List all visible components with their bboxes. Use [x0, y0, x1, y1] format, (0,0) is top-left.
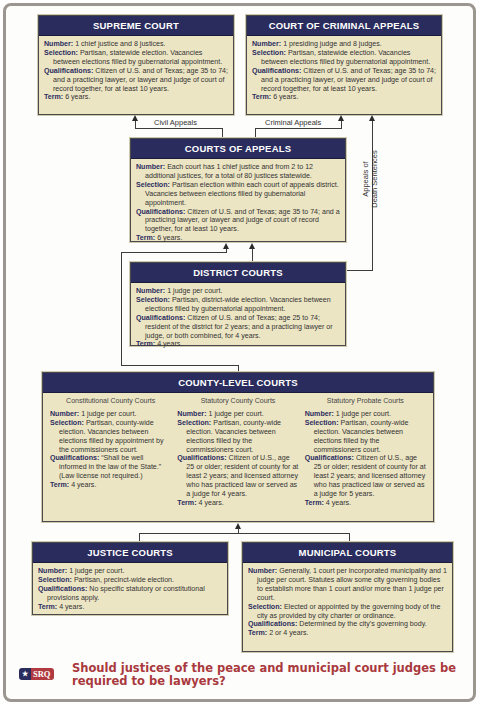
supreme-court-title: SUPREME COURT — [39, 16, 233, 36]
lower-courts-connector — [139, 533, 140, 542]
selection-field: Selection: Partisan, county-wide electio… — [305, 419, 426, 455]
qualifications-field: Qualifications: Citizen of U.S., age 25 … — [177, 454, 298, 499]
death-sentences-connector — [346, 270, 373, 271]
civil-appeals-connector — [135, 128, 223, 129]
selection-field: Selection: Partisan, precinct-wide elect… — [38, 576, 222, 585]
selection-field: Selection: Partisan election within each… — [136, 181, 340, 208]
justice-courts-title: JUSTICE COURTS — [33, 543, 227, 563]
county-level-box: COUNTY-LEVEL COURTS Constitutional Count… — [42, 372, 434, 522]
qualifications-field: Qualifications: “Shall be well informed … — [50, 454, 171, 481]
qualifications-field: Qualifications: Determined by the city's… — [248, 620, 447, 629]
arrow-up-icon — [338, 115, 344, 121]
srq-badge: ★ SRQ — [19, 668, 54, 680]
srq-question: Should justices of the peace and municip… — [72, 662, 462, 688]
statutory-county-courts: Statutory County Courts Number: 1 judge … — [174, 397, 301, 508]
selection-field: Selection: Elected or appointed by the g… — [248, 603, 447, 621]
number-field: Number: 1 presiding judge and 8 judges. — [252, 40, 436, 49]
term-field: Term: 4 years. — [177, 499, 298, 508]
number-field: Number: Generally, 1 court per incorpora… — [248, 567, 447, 603]
selection-field: Selection: Partisan, statewide election.… — [44, 49, 228, 67]
lower-courts-connector — [139, 533, 350, 534]
term-field: Term: 4 years. — [305, 499, 426, 508]
arrow-up-icon — [132, 115, 138, 121]
number-field: Number: 1 judge per court. — [50, 410, 171, 419]
lower-courts-connector — [349, 533, 350, 542]
civil-appeals-label: Civil Appeals — [152, 118, 199, 127]
star-icon: ★ — [19, 668, 31, 680]
civil-appeals-connector — [222, 128, 223, 138]
county-appeals-connector — [238, 365, 239, 372]
number-field: Number: 1 judge per court. — [305, 410, 426, 419]
qualifications-field: Qualifications: Citizen of U.S. and of T… — [252, 67, 436, 94]
number-field: Number: 1 judge per court. — [38, 567, 222, 576]
county-appeals-connector — [121, 252, 122, 366]
criminal-appeals-box: COURT OF CRIMINAL APPEALS Number: 1 pres… — [246, 15, 442, 115]
municipal-courts-box: MUNICIPAL COURTS Number: Generally, 1 co… — [242, 542, 453, 652]
district-courts-box: DISTRICT COURTS Number: 1 judge per cour… — [130, 262, 346, 346]
number-field: Number: 1 chief justice and 8 justices. — [44, 40, 228, 49]
criminal-appeals-connector — [255, 128, 342, 129]
death-sentences-label: Appeals of Death Sentences — [361, 139, 379, 219]
selection-field: Selection: Partisan, district-wide elect… — [136, 296, 340, 314]
term-field: Term: 2 or 4 years. — [248, 629, 447, 638]
number-field: Number: 1 judge per court. — [136, 287, 340, 296]
arrow-up-icon — [369, 115, 375, 121]
qualifications-field: Qualifications: No specific statutory or… — [38, 585, 222, 603]
criminal-appeals-title: COURT OF CRIMINAL APPEALS — [247, 16, 441, 36]
courts-of-appeals-title: COURTS OF APPEALS — [131, 139, 345, 159]
justice-courts-box: JUSTICE COURTS Number: 1 judge per court… — [32, 542, 228, 615]
constitutional-county-courts: Constitutional County Courts Number: 1 j… — [47, 397, 174, 508]
term-field: Term: 6 years. — [44, 93, 228, 102]
county-level-title: COUNTY-LEVEL COURTS — [43, 373, 433, 393]
statutory-probate-courts: Statutory Probate Courts Number: 1 judge… — [302, 397, 429, 508]
municipal-courts-title: MUNICIPAL COURTS — [243, 543, 452, 563]
district-appeals-connector — [252, 248, 253, 262]
supreme-court-box: SUPREME COURT Number: 1 chief justice an… — [38, 15, 234, 115]
term-field: Term: 6 years. — [136, 234, 340, 243]
qualifications-field: Qualifications: Citizen of U.S. and of T… — [44, 67, 228, 94]
criminal-appeals-label: Criminal Appeals — [263, 118, 323, 127]
number-field: Number: 1 judge per court. — [177, 410, 298, 419]
term-field: Term: 4 years. — [50, 481, 171, 490]
srq-label: SRQ — [31, 668, 54, 680]
courts-of-appeals-box: COURTS OF APPEALS Number: Each court has… — [130, 138, 346, 242]
qualifications-field: Qualifications: Citizen of U.S. and of T… — [136, 208, 340, 235]
criminal-appeals-connector — [255, 128, 256, 138]
county-appeals-connector — [121, 252, 227, 253]
term-field: Term: 6 years. — [252, 93, 436, 102]
number-field: Number: Each court has 1 chief justice a… — [136, 163, 340, 181]
selection-field: Selection: Partisan, statewide election.… — [252, 49, 436, 67]
selection-field: Selection: Partisan, county-wide electio… — [177, 419, 298, 455]
selection-field: Selection: Partisan, county-wide electio… — [50, 419, 171, 455]
term-field: Term: 4 years. — [136, 340, 340, 349]
district-courts-title: DISTRICT COURTS — [131, 263, 345, 283]
qualifications-field: Qualifications: Citizen of U.S. and of T… — [136, 314, 340, 341]
qualifications-field: Qualifications: Citizen of U.S., age 25 … — [305, 454, 426, 499]
term-field: Term: 4 years. — [38, 603, 222, 612]
county-appeals-connector — [121, 365, 238, 366]
